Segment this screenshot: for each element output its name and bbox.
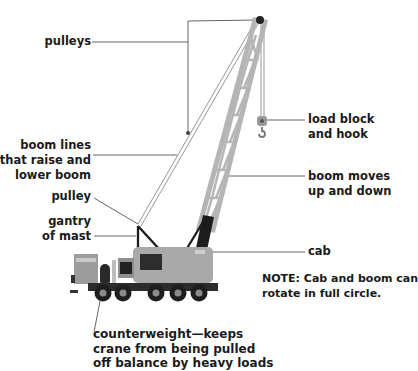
boom <box>196 16 265 250</box>
gantry <box>138 222 203 250</box>
label-boom-moves: boom moves up and down <box>308 169 392 199</box>
load-block-icon <box>257 116 267 137</box>
cab <box>133 247 213 287</box>
label-pulley: pulley <box>51 189 91 204</box>
label-gantry: gantry of mast <box>42 214 91 244</box>
label-pulleys: pulleys <box>45 34 91 49</box>
label-note: NOTE: Cab and boom can rotate in full ci… <box>262 271 418 301</box>
label-boom-lines: boom lines that raise and lower boom <box>0 138 91 183</box>
mid-pulley-icon <box>186 131 190 135</box>
label-counterweight: counterweight—keeps crane from being pul… <box>93 327 273 371</box>
label-load-block: load block and hook <box>308 112 374 142</box>
label-cab: cab <box>308 244 331 259</box>
